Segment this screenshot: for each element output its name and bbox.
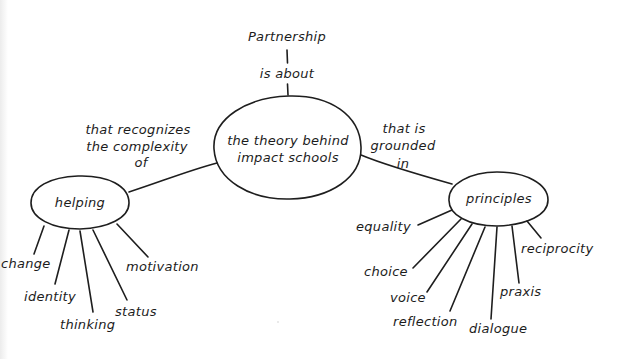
right-link-label-line1: that is <box>382 121 425 136</box>
spoke-principles-choice <box>413 219 461 268</box>
principles-node-label: principles <box>465 191 532 206</box>
spoke-principles-reflection <box>450 227 485 311</box>
spoke-helping-identity <box>55 230 69 284</box>
left-link-label-line2: the complexity <box>86 139 187 154</box>
child-label-voice: voice <box>390 290 426 305</box>
spoke-helping-change <box>34 226 44 254</box>
root-label-partnership: Partnership <box>248 29 326 44</box>
child-label-choice: choice <box>364 264 408 279</box>
link-label-is-about: is about <box>260 66 315 81</box>
child-label-change: change <box>1 256 51 271</box>
connector-root-to-link <box>287 50 288 63</box>
spoke-helping-status <box>93 230 127 300</box>
child-label-reciprocity: reciprocity <box>521 241 594 256</box>
helping-node-label: helping <box>55 195 105 210</box>
child-label-reflection: reflection <box>393 314 458 329</box>
spoke-principles-voice <box>427 224 472 292</box>
child-label-praxis: praxis <box>499 284 541 299</box>
left-link-label-line1: that recognizes <box>85 122 190 137</box>
center-node-label-line1: the theory behind <box>227 133 349 148</box>
spoke-principles-praxis <box>512 226 519 283</box>
concept-map-canvas: Partnership is about the theory behind i… <box>0 0 641 359</box>
spoke-principles-reciprocity <box>527 221 541 238</box>
child-label-dialogue: dialogue <box>469 321 527 336</box>
child-label-identity: identity <box>24 289 76 304</box>
spoke-principles-equality <box>418 210 452 225</box>
child-label-status: status <box>115 304 157 319</box>
child-label-motivation: motivation <box>126 259 199 274</box>
connector-link-to-center <box>288 84 289 95</box>
child-label-thinking: thinking <box>60 317 115 332</box>
child-label-equality: equality <box>356 219 411 234</box>
center-node-label-line2: impact schools <box>237 150 339 165</box>
right-link-label-line2: grounded <box>371 138 436 153</box>
spoke-helping-thinking <box>80 231 93 312</box>
spoke-helping-motivation <box>117 224 148 257</box>
spoke-principles-dialogue <box>491 227 497 319</box>
concept-map-diagram: Partnership is about the theory behind i… <box>0 0 641 359</box>
scan-speck <box>277 321 279 323</box>
left-link-label-line3: of <box>134 155 149 170</box>
